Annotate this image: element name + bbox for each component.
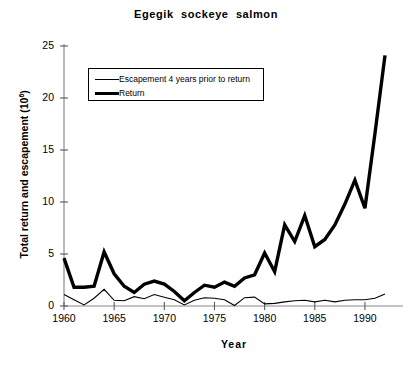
legend-item-escapement: Escapement 4 years prior to return	[95, 73, 250, 85]
legend-swatch-thick-icon	[95, 92, 119, 95]
x-tick-label: 1985	[298, 313, 332, 324]
series-line-escapement	[64, 289, 385, 305]
y-axis-title-exponent: 6	[18, 94, 25, 98]
y-tick-label: 20	[28, 92, 54, 103]
y-tick-label: 25	[28, 40, 54, 51]
chart-legend: Escapement 4 years prior to return Retur…	[88, 68, 264, 101]
y-tick-label: 15	[28, 144, 54, 155]
y-tick-label: 5	[28, 248, 54, 259]
x-tick-label: 1980	[248, 313, 282, 324]
chart-figure: Egegik sockeye salmon Total return and e…	[0, 0, 412, 370]
x-tick-label: 1970	[147, 313, 181, 324]
x-axis-title: Year	[64, 338, 404, 350]
x-tick-label: 1960	[47, 313, 81, 324]
y-axis-title-text: Total return and escapement (10	[18, 98, 30, 259]
legend-label-return: Return	[119, 89, 145, 98]
legend-label-escapement: Escapement 4 years prior to return	[119, 75, 250, 84]
x-tick-label: 1990	[348, 313, 382, 324]
chart-title: Egegik sockeye salmon	[0, 8, 412, 20]
x-tick-label: 1975	[197, 313, 231, 324]
y-tick-label: 0	[28, 300, 54, 311]
y-tick-label: 10	[28, 196, 54, 207]
legend-swatch-thin-icon	[95, 79, 119, 80]
legend-item-return: Return	[95, 87, 145, 99]
x-tick-label: 1965	[97, 313, 131, 324]
